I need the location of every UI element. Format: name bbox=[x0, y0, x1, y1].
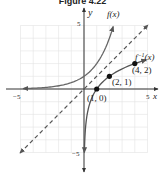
point-label-2-1: (2, 1) bbox=[112, 77, 132, 87]
x-min-label: −5 bbox=[13, 93, 21, 101]
f-inverse-label: f−1(x) bbox=[135, 52, 155, 62]
y-min-label: −5 bbox=[72, 150, 80, 158]
y-max-label: 5 bbox=[77, 20, 81, 28]
chart-plot: y 5 −5 −5 5 x f(x) f−1(x) (1, 0) (2, 1) … bbox=[0, 0, 165, 173]
y-axis-label: y bbox=[87, 7, 93, 18]
x-max-label: 5 bbox=[146, 93, 150, 101]
f-label: f(x) bbox=[107, 9, 120, 19]
data-point bbox=[94, 86, 99, 91]
x-axis-label: x bbox=[152, 91, 157, 101]
point-label-4-2: (4, 2) bbox=[132, 65, 152, 75]
f-curve bbox=[23, 26, 113, 88]
point-label-1-0: (1, 0) bbox=[87, 93, 107, 103]
